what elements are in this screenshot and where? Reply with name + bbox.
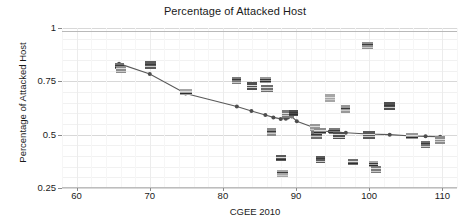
flag-stripe bbox=[333, 134, 345, 135]
country-flag-icon bbox=[421, 141, 430, 148]
flag-stripe bbox=[363, 134, 375, 135]
country-flag-icon bbox=[371, 166, 381, 173]
trend-node bbox=[235, 105, 239, 109]
flag-stripe bbox=[260, 81, 271, 82]
flag-stripe bbox=[277, 172, 288, 173]
flag-stripe bbox=[333, 137, 345, 138]
flag-stripe bbox=[371, 171, 381, 172]
x-tick-mark bbox=[223, 188, 224, 191]
flag-stripe bbox=[232, 82, 241, 83]
x-tick-mark bbox=[77, 188, 78, 191]
flag-stripe bbox=[314, 130, 326, 131]
country-flag-icon bbox=[276, 155, 286, 161]
trend-polyline bbox=[119, 64, 440, 137]
y-tick-label: 1 bbox=[14, 22, 56, 33]
flag-stripe bbox=[369, 163, 378, 164]
country-flag-icon bbox=[289, 110, 298, 116]
flag-stripe bbox=[310, 126, 320, 127]
x-tick-mark bbox=[296, 188, 297, 191]
flag-stripe bbox=[180, 91, 192, 92]
flag-stripe bbox=[247, 85, 257, 86]
country-flag-icon bbox=[277, 170, 288, 177]
flag-stripe bbox=[371, 168, 381, 169]
flag-stripe bbox=[435, 139, 445, 140]
trend-node bbox=[271, 115, 275, 119]
flag-stripe bbox=[116, 71, 126, 72]
flag-stripe bbox=[325, 99, 335, 100]
country-flag-icon bbox=[261, 85, 273, 92]
country-flag-icon bbox=[362, 42, 373, 49]
trend-node bbox=[148, 72, 152, 76]
country-flag-icon bbox=[363, 131, 375, 139]
flag-stripe bbox=[348, 163, 358, 164]
country-flag-icon bbox=[333, 132, 345, 139]
plot-area bbox=[62, 28, 457, 188]
flag-stripe bbox=[261, 87, 273, 88]
country-flag-icon bbox=[314, 128, 326, 134]
flag-stripe bbox=[289, 114, 298, 115]
country-flag-icon bbox=[325, 94, 335, 102]
country-flag-icon bbox=[116, 66, 126, 73]
flag-stripe bbox=[363, 136, 375, 137]
x-tick-label: 90 bbox=[276, 190, 316, 201]
country-flag-icon bbox=[406, 133, 418, 139]
y-tick-label: 0.75 bbox=[14, 75, 56, 86]
country-flag-icon bbox=[341, 105, 350, 113]
flag-stripe bbox=[314, 132, 326, 133]
flag-stripe bbox=[348, 161, 358, 162]
trend-node bbox=[388, 133, 392, 137]
gridline-y-major bbox=[62, 188, 457, 189]
flag-stripe bbox=[362, 47, 373, 48]
flag-stripe bbox=[276, 159, 286, 160]
x-tick-mark bbox=[442, 188, 443, 191]
x-tick-label: 60 bbox=[57, 190, 97, 201]
y-tick-label: 0.25 bbox=[14, 182, 56, 193]
flag-stripe bbox=[421, 143, 430, 144]
x-tick-mark bbox=[150, 188, 151, 191]
country-flag-icon bbox=[180, 89, 192, 95]
x-tick-label: 70 bbox=[130, 190, 170, 201]
chart-figure: Percentage of Attacked Host Percentage o… bbox=[0, 0, 470, 223]
flag-stripe bbox=[435, 141, 445, 142]
flag-stripe bbox=[384, 107, 395, 108]
flag-stripe bbox=[311, 136, 322, 137]
flag-stripe bbox=[325, 97, 335, 98]
flag-stripe bbox=[232, 79, 241, 80]
flag-stripe bbox=[289, 112, 298, 113]
flag-stripe bbox=[384, 105, 395, 106]
country-flag-icon bbox=[267, 128, 276, 136]
country-flag-icon bbox=[435, 136, 445, 144]
country-flag-icon bbox=[260, 77, 271, 83]
flag-stripe bbox=[341, 110, 350, 111]
flag-stripe bbox=[247, 87, 257, 88]
country-flag-icon bbox=[247, 82, 257, 90]
flag-stripe bbox=[180, 93, 192, 94]
flag-stripe bbox=[406, 137, 418, 138]
trend-node bbox=[424, 134, 428, 138]
x-tick-label: 80 bbox=[203, 190, 243, 201]
flag-stripe bbox=[261, 90, 273, 91]
flag-stripe bbox=[145, 64, 156, 65]
flag-stripe bbox=[316, 161, 325, 162]
flag-stripe bbox=[267, 133, 276, 134]
x-tick-label: 110 bbox=[422, 190, 462, 201]
trend-line bbox=[62, 28, 457, 188]
country-flag-icon bbox=[232, 77, 241, 84]
flag-stripe bbox=[267, 131, 276, 132]
flag-stripe bbox=[406, 135, 418, 136]
flag-stripe bbox=[260, 79, 271, 80]
country-flag-icon bbox=[145, 61, 156, 69]
y-tick-label: 0.5 bbox=[14, 129, 56, 140]
x-tick-label: 100 bbox=[349, 190, 389, 201]
flag-stripe bbox=[341, 108, 350, 109]
country-flag-icon bbox=[348, 159, 358, 165]
country-flag-icon bbox=[384, 102, 395, 110]
x-tick-mark bbox=[369, 188, 370, 191]
flag-stripe bbox=[421, 146, 430, 147]
trend-node bbox=[249, 109, 253, 113]
flag-stripe bbox=[116, 68, 126, 69]
gridline-x-minor bbox=[457, 28, 458, 188]
trend-node bbox=[263, 113, 267, 117]
flag-stripe bbox=[362, 44, 373, 45]
flag-stripe bbox=[145, 66, 156, 67]
